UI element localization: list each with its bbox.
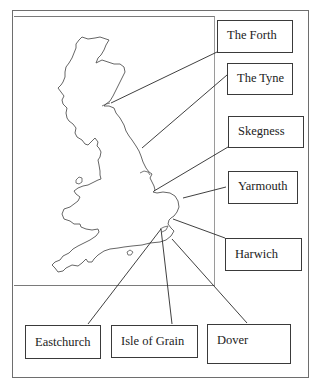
label-dover: Dover — [217, 334, 248, 347]
label-tyne: The Tyne — [237, 72, 284, 85]
label-box-eastchurch: Eastchurch — [25, 325, 101, 359]
isle-of-man — [76, 177, 82, 184]
diagram-canvas: The Forth The Tyne Skegness Yarmouth Har… — [0, 0, 315, 383]
label-isle-of-grain: Isle of Grain — [121, 335, 184, 348]
leader-line-yarmouth — [183, 187, 226, 198]
leader-line-eastchurch — [88, 229, 161, 324]
isle-of-wight — [127, 250, 133, 255]
label-box-dover: Dover — [207, 324, 291, 364]
label-box-isle-of-grain: Isle of Grain — [111, 325, 198, 358]
label-box-harwich: Harwich — [225, 238, 302, 271]
label-box-skegness: Skegness — [228, 116, 304, 148]
leader-line-forth — [111, 52, 217, 103]
label-box-yarmouth: Yarmouth — [228, 171, 298, 204]
label-yarmouth: Yarmouth — [238, 180, 287, 193]
label-box-tyne: The Tyne — [227, 63, 293, 95]
britain-coastline — [52, 37, 179, 272]
label-forth: The Forth — [227, 29, 277, 42]
label-box-forth: The Forth — [217, 20, 293, 53]
label-harwich: Harwich — [235, 248, 278, 261]
leader-line-skegness — [154, 147, 228, 191]
label-eastchurch: Eastchurch — [35, 336, 91, 349]
leader-line-tyne — [142, 75, 227, 148]
leader-line-harwich — [173, 219, 225, 238]
label-skegness: Skegness — [238, 125, 285, 138]
leader-line-isle-of-grain — [161, 229, 172, 324]
